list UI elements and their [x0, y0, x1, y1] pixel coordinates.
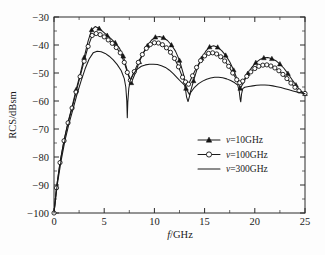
x-axis-title: f/GHz — [167, 229, 193, 240]
series-3 — [54, 51, 305, 213]
marker-circle — [136, 60, 140, 64]
plot-frame — [54, 17, 305, 213]
marker-circle — [148, 42, 152, 46]
marker-circle — [144, 46, 148, 50]
y-tick-label: −40 — [33, 40, 49, 51]
marker-circle — [219, 55, 223, 59]
marker-circle — [215, 52, 219, 56]
marker-circle — [241, 79, 245, 83]
marker-circle — [257, 64, 261, 68]
marker-circle — [227, 64, 231, 68]
marker-circle — [261, 63, 265, 67]
marker-circle — [277, 69, 281, 73]
marker-triangle — [191, 78, 196, 82]
y-axis-title: RCS/dBsm — [7, 91, 18, 138]
y-axis-tick-labels: −100−90−80−70−60−50−40−30 — [27, 12, 49, 219]
y-tick-label: −60 — [33, 96, 49, 107]
y-tick-label: −50 — [33, 68, 49, 79]
marker-circle — [152, 41, 156, 45]
marker-circle — [114, 45, 118, 49]
marker-circle — [160, 43, 164, 47]
marker-circle — [168, 50, 172, 54]
legend-label: ν=100GHz — [226, 150, 268, 160]
x-tick-label: 10 — [149, 216, 160, 227]
marker-circle — [207, 51, 211, 55]
marker-circle — [164, 46, 168, 50]
chart-legend: ν=10GHzν=100GHzν=300GHz — [198, 135, 268, 174]
marker-circle — [245, 74, 249, 78]
marker-circle — [82, 59, 86, 63]
marker-circle — [90, 33, 94, 37]
marker-circle — [98, 33, 102, 37]
marker-circle — [118, 51, 122, 55]
legend-item-2: ν=100GHz — [198, 150, 268, 160]
rcs-vs-frequency-chart: 0510152025 −100−90−80−70−60−50−40−30 f/G… — [0, 0, 325, 255]
marker-circle — [289, 81, 293, 85]
x-tick-label: 25 — [300, 216, 311, 227]
marker-circle — [102, 35, 106, 39]
x-tick-label: 15 — [199, 216, 210, 227]
marker-circle — [140, 52, 144, 56]
marker-circle — [198, 59, 202, 63]
marker-circle — [176, 65, 180, 69]
marker-circle — [273, 66, 277, 70]
marker-circle — [293, 85, 297, 89]
legend-marker-circle — [206, 152, 211, 157]
y-tick-label: −90 — [33, 180, 49, 191]
marker-circle — [269, 64, 273, 68]
series-line — [54, 51, 305, 213]
y-tick-label: −30 — [33, 12, 49, 23]
marker-triangle — [177, 58, 182, 62]
marker-circle — [249, 70, 253, 74]
marker-circle — [265, 63, 269, 67]
marker-circle — [231, 71, 235, 75]
chart-figure: 0510152025 −100−90−80−70−60−50−40−30 f/G… — [0, 0, 325, 255]
marker-circle — [285, 77, 289, 81]
y-tick-label: −80 — [33, 152, 49, 163]
y-tick-label: −70 — [33, 124, 49, 135]
x-tick-label: 5 — [102, 216, 107, 227]
marker-circle — [110, 41, 114, 45]
marker-circle — [122, 60, 126, 64]
x-tick-label: 0 — [51, 216, 56, 227]
marker-circle — [186, 82, 190, 86]
x-tick-label: 20 — [250, 216, 261, 227]
marker-circle — [94, 31, 98, 35]
marker-circle — [203, 54, 207, 58]
marker-circle — [156, 41, 160, 45]
marker-circle — [172, 56, 176, 60]
marker-circle — [253, 66, 257, 70]
x-axis-tick-labels: 0510152025 — [51, 216, 310, 227]
marker-circle — [180, 75, 184, 79]
marker-circle — [211, 51, 215, 55]
marker-circle — [125, 70, 129, 74]
axis-ticks — [54, 17, 305, 213]
marker-circle — [223, 59, 227, 63]
legend-label: ν=300GHz — [226, 164, 268, 174]
data-series-group — [52, 26, 307, 215]
y-tick-label: −100 — [27, 208, 49, 219]
legend-item-1: ν=10GHz — [198, 135, 263, 145]
legend-label: ν=10GHz — [226, 135, 263, 145]
marker-circle — [106, 38, 110, 42]
marker-circle — [190, 74, 194, 78]
marker-circle — [86, 44, 90, 48]
marker-circle — [281, 72, 285, 76]
marker-circle — [194, 65, 198, 69]
legend-item-3: ν=300GHz — [198, 164, 268, 174]
